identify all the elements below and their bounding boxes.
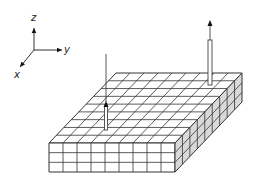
left-arrow-post [105, 106, 108, 130]
axis-label-x: x [13, 69, 20, 80]
coordinate-axes: z y x [13, 12, 71, 80]
diagram-canvas: z y x [0, 0, 254, 180]
axis-label-y: y [63, 44, 71, 55]
axis-label-z: z [30, 12, 37, 23]
z-axis-arrowhead-icon [32, 28, 37, 33]
gridded-slab [49, 73, 242, 172]
slab-front-face [49, 143, 175, 172]
right-arrow-post [208, 40, 212, 85]
right-arrowhead-icon [208, 20, 213, 26]
y-axis-arrowhead-icon [57, 48, 62, 53]
